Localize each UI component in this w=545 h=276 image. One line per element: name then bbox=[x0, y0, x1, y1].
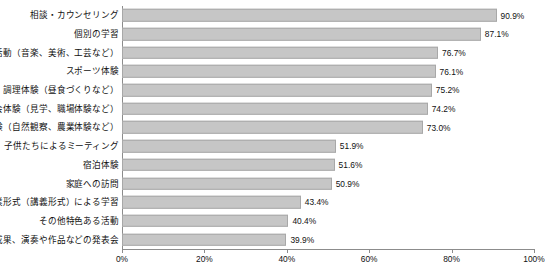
category-label: 学習成果、演奏や作品などの発表会 bbox=[0, 235, 122, 244]
bar-value-label: 50.9% bbox=[332, 179, 360, 187]
bar-track: 50.9% bbox=[122, 177, 534, 190]
bar-row: 自然体験（自然観察、農業体験など）73.0% bbox=[0, 118, 540, 137]
bar-value-label: 87.1% bbox=[481, 30, 509, 38]
category-label: その他特色ある活動 bbox=[39, 217, 122, 226]
bar-value-label: 75.2% bbox=[432, 86, 460, 94]
bar bbox=[122, 121, 423, 134]
bar-track: 51.9% bbox=[122, 140, 534, 153]
bar-row: 芸術活動（音楽、美術、工芸など）76.7% bbox=[0, 43, 540, 62]
x-axis-tick bbox=[122, 249, 123, 253]
bar bbox=[122, 215, 288, 228]
bar-value-label: 74.2% bbox=[428, 105, 456, 113]
bar-row: 家庭への訪問50.9% bbox=[0, 174, 540, 193]
bar bbox=[122, 140, 336, 153]
bar-value-label: 43.4% bbox=[301, 198, 329, 206]
bar bbox=[122, 196, 301, 209]
bar-track: 39.9% bbox=[122, 233, 534, 246]
bar bbox=[122, 9, 497, 22]
bar-track: 87.1% bbox=[122, 28, 534, 41]
bar-row: スポーツ体験76.1% bbox=[0, 62, 540, 81]
bar-value-label: 51.6% bbox=[335, 161, 363, 169]
bar bbox=[122, 28, 481, 41]
x-axis-tick bbox=[287, 249, 288, 253]
x-axis-tick-label: 40% bbox=[278, 255, 295, 263]
bar-value-label: 76.1% bbox=[436, 67, 464, 75]
bar-track: 40.4% bbox=[122, 215, 534, 228]
category-label: 社会体験（見学、職場体験など） bbox=[0, 104, 122, 113]
bar-track: 76.7% bbox=[122, 46, 534, 59]
x-axis-tick-label: 80% bbox=[443, 255, 460, 263]
category-label: 芸術活動（音楽、美術、工芸など） bbox=[0, 48, 122, 57]
x-axis-tick-label: 60% bbox=[361, 255, 378, 263]
category-label: スポーツ体験 bbox=[66, 67, 122, 76]
category-label: 授業形式（講義形式）による学習 bbox=[0, 198, 122, 207]
x-axis-tick bbox=[452, 249, 453, 253]
bar bbox=[122, 177, 332, 190]
bar-row: 授業形式（講義形式）による学習43.4% bbox=[0, 193, 540, 212]
bar-track: 73.0% bbox=[122, 121, 534, 134]
bar-value-label: 40.4% bbox=[288, 217, 316, 225]
category-label: 宿泊体験 bbox=[83, 161, 122, 170]
bar-row: 相談・カウンセリング90.9% bbox=[0, 6, 540, 25]
bar-value-label: 39.9% bbox=[286, 235, 314, 243]
category-label: 家庭への訪問 bbox=[66, 179, 122, 188]
bar bbox=[122, 84, 432, 97]
bar-rows-container: 相談・カウンセリング90.9%個別の学習87.1%芸術活動（音楽、美術、工芸など… bbox=[0, 6, 540, 249]
bar bbox=[122, 103, 428, 116]
category-label: 相談・カウンセリング bbox=[30, 11, 122, 20]
bar bbox=[122, 233, 286, 246]
bar-track: 75.2% bbox=[122, 84, 534, 97]
bar-track: 90.9% bbox=[122, 9, 534, 22]
bar bbox=[122, 65, 436, 78]
category-label: 個別の学習 bbox=[74, 30, 122, 39]
bar-row: 個別の学習87.1% bbox=[0, 25, 540, 44]
bar-track: 74.2% bbox=[122, 103, 534, 116]
bar-row: 宿泊体験51.6% bbox=[0, 156, 540, 175]
category-label: 子供たちによるミーティング bbox=[4, 142, 122, 151]
bar-track: 43.4% bbox=[122, 196, 534, 209]
bar-row: 社会体験（見学、職場体験など）74.2% bbox=[0, 99, 540, 118]
x-axis-tick-label: 20% bbox=[196, 255, 213, 263]
x-axis-tick-label: 0% bbox=[116, 255, 128, 263]
bar bbox=[122, 159, 335, 172]
x-axis-tick bbox=[369, 249, 370, 253]
bar-row: その他特色ある活動40.4% bbox=[0, 212, 540, 231]
x-axis-tick-label: 100% bbox=[523, 255, 544, 263]
bar-value-label: 90.9% bbox=[497, 11, 525, 19]
category-label: 自然体験（自然観察、農業体験など） bbox=[0, 123, 122, 132]
x-axis-tick bbox=[204, 249, 205, 253]
category-label: 調理体験（昼食づくりなど） bbox=[3, 86, 122, 95]
bar-value-label: 73.0% bbox=[423, 123, 451, 131]
bar-track: 76.1% bbox=[122, 65, 534, 78]
x-axis-ticks: 0%20%40%60%80%100% bbox=[122, 249, 534, 273]
bar-value-label: 76.7% bbox=[438, 49, 466, 57]
bar-row: 学習成果、演奏や作品などの発表会39.9% bbox=[0, 230, 540, 249]
x-axis-tick bbox=[534, 249, 535, 253]
bar bbox=[122, 46, 438, 59]
bar-value-label: 51.9% bbox=[336, 142, 364, 150]
bar-row: 調理体験（昼食づくりなど）75.2% bbox=[0, 81, 540, 100]
bar-row: 子供たちによるミーティング51.9% bbox=[0, 137, 540, 156]
bar-track: 51.6% bbox=[122, 159, 534, 172]
